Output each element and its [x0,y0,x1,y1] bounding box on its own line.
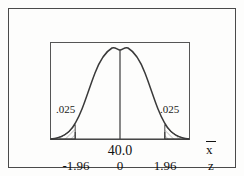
left-tail-area-label: .025 [56,103,75,115]
mean-value-label: 40.0 [108,143,133,159]
x-bar-axis-letter: x [206,142,213,157]
right-tail-area-label: .025 [160,103,179,115]
x-bar-axis-label: x [206,141,216,156]
z-center-label: 0 [117,158,124,174]
right-tail-shaded-region [165,125,189,139]
normal-distribution-figure: .025 .025 40.0 -1.96 0 1.96 x z [0,0,244,176]
z-upper-critical-label: 1.96 [154,158,177,174]
z-lower-critical-label: -1.96 [62,158,89,174]
z-axis-label: z [208,158,214,174]
left-tail-shaded-region [51,125,75,139]
